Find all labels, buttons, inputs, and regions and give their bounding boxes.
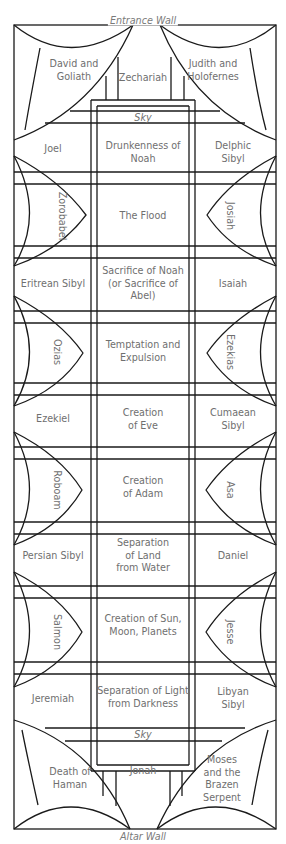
ancestor-jesse: Jesse bbox=[225, 620, 236, 645]
prophet-isaiah: Isaiah bbox=[219, 278, 247, 291]
sibyl-eritrean: Eritrean Sibyl bbox=[21, 278, 85, 291]
corner-top-left: David and Goliath bbox=[50, 58, 99, 83]
prophet-daniel: Daniel bbox=[218, 550, 249, 563]
ancestor-ozias: Ozias bbox=[52, 339, 63, 365]
panel-creation-of-adam: Creation of Adam bbox=[123, 475, 164, 500]
prophet-jeremiah: Jeremiah bbox=[32, 693, 74, 706]
prophet-joel: Joel bbox=[44, 143, 61, 156]
panel-temptation-and-expulsion: Temptation and Expulsion bbox=[106, 339, 181, 364]
corner-bottom-right: Moses and the Brazen Serpent bbox=[203, 754, 241, 804]
sibyl-delphic: Delphic Sibyl bbox=[215, 140, 251, 165]
ancestor-asa: Asa bbox=[225, 481, 236, 498]
ancestor-salmon: Salmon bbox=[52, 614, 63, 650]
entrance-wall-label: Entrance Wall bbox=[108, 15, 178, 26]
end-top-zechariah: Zechariah bbox=[119, 72, 167, 85]
panel-sacrifice-of-noah: Sacrifice of Noah (or Sacrifice of Abel) bbox=[102, 265, 183, 303]
ancestor-zorobabel: Zorobabel bbox=[57, 192, 68, 241]
panel-creation-of-eve: Creation of Eve bbox=[123, 407, 164, 432]
panel-separation-of-land-from-water: Separation of Land from Water bbox=[116, 537, 170, 575]
sky-label-bottom: Sky bbox=[134, 729, 151, 740]
sibyl-persian: Persian Sibyl bbox=[22, 550, 83, 563]
sibyl-cumaean: Cumaean Sibyl bbox=[207, 407, 260, 432]
ancestor-roboam: Roboam bbox=[52, 470, 63, 509]
sky-label-top: Sky bbox=[134, 112, 151, 123]
altar-wall-label: Altar Wall bbox=[118, 831, 168, 842]
panel-separation-of-light-from-darkness: Separation of Light from Darkness bbox=[97, 685, 188, 710]
panel-creation-of-sun-moon-planets: Creation of Sun, Moon, Planets bbox=[104, 613, 181, 638]
end-bottom-jonah: Jonah bbox=[130, 765, 157, 778]
prophet-ezekiel: Ezekiel bbox=[36, 413, 70, 426]
ancestor-ezekias: Ezekias bbox=[225, 334, 236, 370]
panel-the-flood: The Flood bbox=[120, 210, 167, 223]
corner-top-right: Judith and Holofernes bbox=[187, 58, 239, 83]
corner-bottom-left: Death of Haman bbox=[49, 766, 90, 791]
ancestor-josiah: Josiah bbox=[225, 202, 236, 230]
panel-drunkenness-of-noah: Drunkenness of Noah bbox=[106, 140, 181, 165]
sibyl-libyan: Libyan Sibyl bbox=[207, 686, 260, 711]
